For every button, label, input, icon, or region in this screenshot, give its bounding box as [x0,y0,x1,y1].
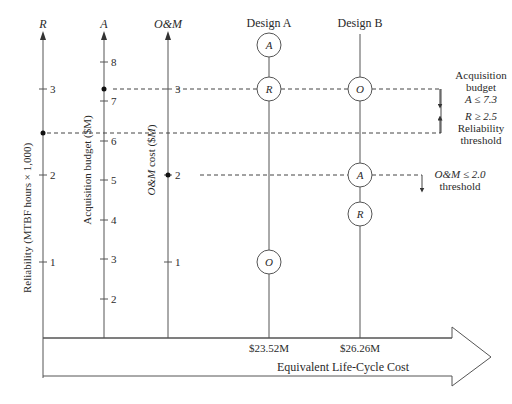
tick-label: 3 [111,253,117,265]
tick-label: 2 [175,169,181,181]
svg-text:A ≤ 7.3: A ≤ 7.3 [464,93,497,105]
design-a-label: Design A [247,16,292,30]
axis-acquisition: A 8 7 6 5 4 3 2 Acquisition budget ($M) [81,17,117,338]
design-a-cost: $23.52M [249,342,289,354]
design-b-label: Design B [338,16,383,30]
svg-text:threshold: threshold [461,134,502,146]
axis-label-a: A [99,17,108,31]
x-axis-label: Equivalent Life-Cycle Cost [277,360,410,374]
design-a-column: Design A A R O $23.52M [247,16,292,354]
marker-o: O [265,256,273,268]
svg-text:R ≥ 2.5: R ≥ 2.5 [464,110,498,122]
acquisition-budget-annotation: Acquisition budget A ≤ 7.3 [455,69,507,105]
marker-a: A [265,39,273,51]
svg-text:budget: budget [466,81,496,93]
svg-text:threshold: threshold [440,180,481,192]
tick-label: 5 [111,174,117,186]
marker-o: O [356,83,364,95]
om-threshold-annotation: O&M ≤ 2.0 threshold [435,168,486,192]
svg-text:Reliability: Reliability [458,122,505,134]
axis-label-r: R [38,17,47,31]
axis-title-acquisition: Acquisition budget ($M) [81,115,94,225]
tick-label: 6 [111,135,117,147]
axis-title-reliability: Reliability (MTBF hours × 1,000) [21,143,34,293]
tick-label: 4 [111,214,117,226]
reliability-threshold-annotation: R ≥ 2.5 Reliability threshold [458,110,505,146]
marker-a: A [356,169,364,181]
threshold-lines [47,89,441,175]
svg-text:O&M ≤ 2.0: O&M ≤ 2.0 [435,168,486,180]
axis-label-om: O&M [154,17,183,31]
life-cycle-cost-diagram: R 3 2 1 Reliability (MTBF hours × 1,000)… [0,0,512,404]
axis-reliability: R 3 2 1 Reliability (MTBF hours × 1,000) [21,17,56,378]
design-b-cost: $26.26M [340,342,380,354]
marker-r: R [356,208,364,220]
tick-label: 1 [50,256,56,268]
life-cycle-cost-arrow [43,327,491,386]
svg-text:Acquisition: Acquisition [455,69,507,81]
tick-label: 1 [175,256,181,268]
tick-label: 8 [111,56,117,68]
design-b-column: Design B O A R $26.26M [338,16,383,354]
tick-label: 3 [50,83,56,95]
tick-label: 7 [111,95,117,107]
marker-r: R [265,83,273,95]
svg-text:O&M cost ($M): O&M cost ($M) [145,124,158,195]
tick-label: 2 [111,293,117,305]
axis-om-cost: O&M 3 2 1 O&M cost ($M) [145,17,183,338]
tick-label: 2 [50,169,56,181]
